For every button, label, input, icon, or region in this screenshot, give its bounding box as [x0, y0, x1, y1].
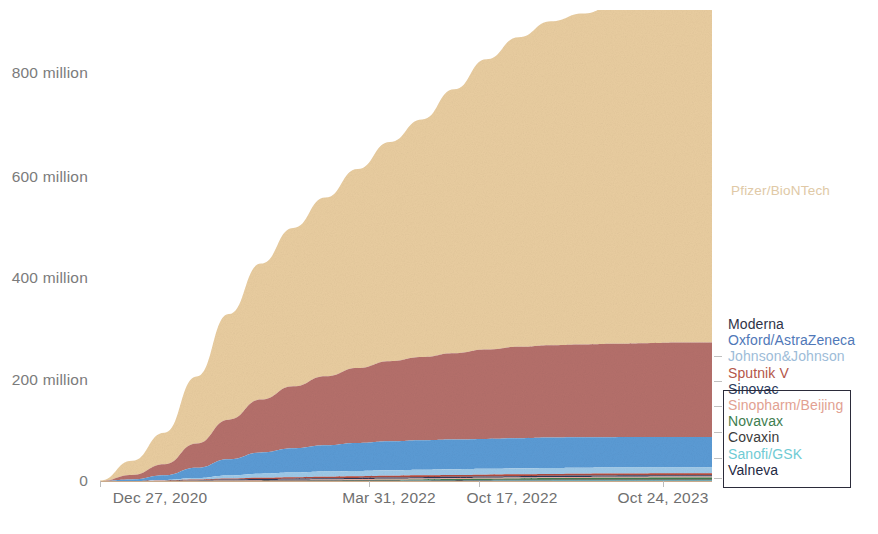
legend-item-johnson-johnson[interactable]: Johnson&Johnson [728, 348, 855, 364]
x-tick-label-3: Oct 17, 2022 [466, 489, 557, 507]
legend-item-label: Sputnik V [728, 365, 789, 381]
x-tick-mark-3 [479, 481, 480, 487]
x-tick-label-4: Oct 24, 2023 [617, 489, 708, 507]
y-tick-label-200: 200 million [0, 371, 88, 389]
y-tick-label-0: 0 [0, 472, 88, 490]
legend-tick-stub-5 [714, 458, 722, 459]
legend-tick-stub-4 [714, 432, 722, 433]
legend-item-oxford-astrazeneca[interactable]: Oxford/AstraZeneca [728, 332, 855, 348]
x-tick-mark-2 [369, 481, 370, 487]
legend-tick-stub-2 [714, 381, 722, 382]
y-tick-label-400: 400 million [0, 269, 88, 287]
legend-item-sputnik-v[interactable]: Sputnik V [728, 365, 855, 381]
x-tick-label-2: Mar 31, 2022 [342, 489, 436, 507]
legend-item-moderna[interactable]: Moderna [728, 316, 855, 332]
legend-highlight-box [723, 390, 851, 488]
x-tick-mark-1 [100, 481, 101, 487]
stacked-area-series [100, 10, 712, 481]
y-tick-label-800: 800 million [0, 64, 88, 82]
x-tick-mark-4 [663, 481, 664, 487]
vaccine-doses-stacked-area-chart: 0 200 million 400 million 600 million 80… [0, 0, 878, 534]
x-tick-label-1: Dec 27, 2020 [113, 489, 208, 507]
legend-tick-stub-3 [714, 406, 722, 407]
series-annotation-pfizer-biontech: Pfizer/BioNTech [731, 183, 830, 198]
legend-item-label: Moderna [728, 316, 784, 332]
legend-item-label: Johnson&Johnson [728, 348, 845, 364]
legend-tick-stub-6 [714, 478, 722, 479]
legend-tick-stub-1 [714, 356, 722, 357]
y-tick-label-600: 600 million [0, 168, 88, 186]
legend-item-label: Oxford/AstraZeneca [728, 332, 855, 348]
x-axis-line [100, 481, 712, 482]
plot-area [100, 10, 712, 481]
